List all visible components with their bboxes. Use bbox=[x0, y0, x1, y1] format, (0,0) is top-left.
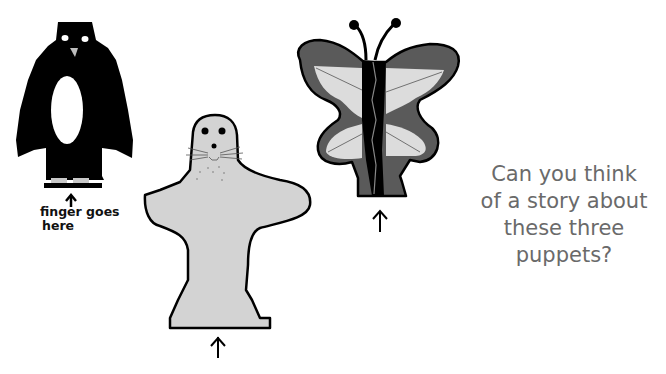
question-line-1: Can you think bbox=[466, 161, 662, 188]
seal-puppet bbox=[145, 115, 310, 358]
question-line-4: puppets? bbox=[466, 242, 662, 269]
butterfly-puppet bbox=[298, 18, 459, 232]
arrow-up-icon bbox=[373, 211, 387, 232]
arrow-up-icon bbox=[211, 337, 225, 358]
question-line-3: these three bbox=[466, 215, 662, 242]
story-question: Can you think of a story about these thr… bbox=[466, 161, 662, 269]
label-line-2: here bbox=[40, 219, 130, 233]
finger-goes-here-label: finger goes here bbox=[40, 205, 130, 233]
question-line-2: of a story about bbox=[466, 188, 662, 215]
label-line-1: finger goes bbox=[40, 204, 120, 219]
penguin-puppet bbox=[16, 22, 133, 207]
